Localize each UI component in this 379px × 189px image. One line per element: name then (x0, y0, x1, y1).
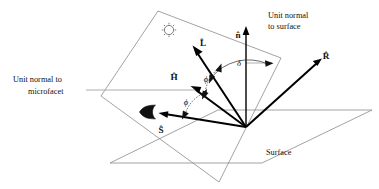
vector-H-hat (191, 86, 247, 127)
microfacet-plane (101, 11, 281, 182)
vector-R-hat (246, 59, 322, 128)
eye-icon (140, 105, 156, 119)
angle-label-delta: δ (237, 58, 242, 68)
vector-label-H: Ĥ (170, 72, 177, 82)
sun-icon (162, 23, 176, 37)
unit-normal-microfacet-line1: Unit normal to (13, 75, 62, 84)
microfacet-plane-outline (101, 11, 281, 182)
vector-label-n: n̂ (235, 30, 240, 40)
angle-label-phi-upper: ϕ (204, 74, 209, 84)
vector-label-S: Ŝ (158, 125, 163, 135)
angle-label-phi-lower: ϕ (184, 97, 189, 107)
vector-S-hat (159, 111, 247, 127)
unit-normal-surface-line1: Unit normal (268, 11, 309, 20)
unit-normal-surface-line2: to surface (268, 22, 301, 31)
vector-label-L: L̂ (200, 38, 206, 48)
surface-label: Surface (266, 148, 292, 157)
microfacet-geometry-diagram: Unit normal to microfacet Unit normal to… (0, 0, 379, 189)
diagram-canvas: Unit normal to microfacet Unit normal to… (0, 0, 379, 189)
angle-delta-arc (209, 60, 274, 84)
unit-normal-microfacet-line2: microfacet (28, 87, 64, 96)
vector-label-R: R̂ (323, 51, 330, 61)
vector-n-hat (243, 26, 250, 127)
